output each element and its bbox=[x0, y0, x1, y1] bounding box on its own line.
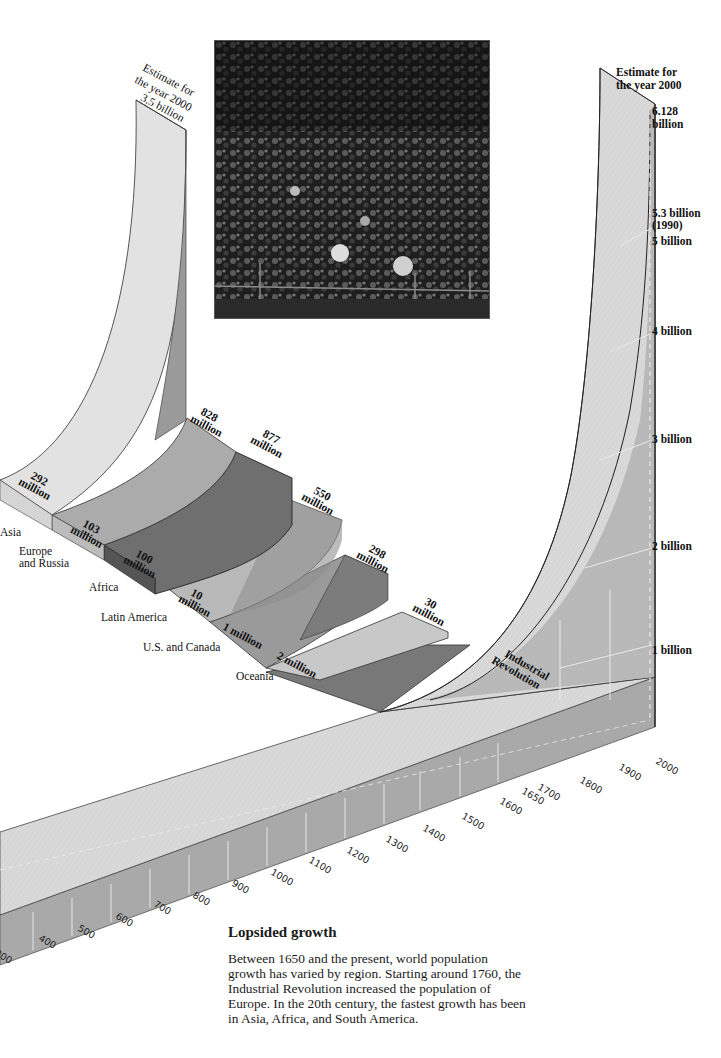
crowd-photo bbox=[214, 40, 490, 319]
world-header-2: the year 2000 bbox=[616, 79, 682, 92]
world-top-unit: billion bbox=[652, 118, 684, 130]
region-name-latin-america: Latin America bbox=[101, 611, 167, 623]
year-label: 800 bbox=[191, 889, 212, 908]
world-top-value: 6.128 bbox=[652, 105, 678, 117]
region-asia bbox=[0, 100, 186, 515]
region-name-asia: Asia bbox=[0, 526, 21, 538]
year-label: 1600 bbox=[498, 795, 524, 817]
y-label-4-billion: 4 billion bbox=[652, 325, 693, 337]
year-label: 1900 bbox=[617, 761, 643, 783]
year-label: 1800 bbox=[578, 774, 604, 796]
year-label: 1100 bbox=[307, 854, 333, 876]
year-label: 900 bbox=[230, 877, 251, 896]
caption-body: Between 1650 and the present, world popu… bbox=[228, 951, 528, 1026]
y-label-1990: (1990) bbox=[652, 219, 683, 232]
year-label: 2000 bbox=[654, 755, 680, 777]
caption: Lopsided growth Between 1650 and the pre… bbox=[228, 924, 528, 1026]
region-name-africa: Africa bbox=[89, 581, 118, 593]
year-label: 1300 bbox=[384, 833, 410, 855]
region-name-us-canada: U.S. and Canada bbox=[143, 641, 220, 653]
region-name-europe-2: and Russia bbox=[19, 557, 69, 569]
y-label-2-billion: 2 billion bbox=[652, 540, 693, 552]
world-header-1: Estimate for bbox=[616, 66, 677, 78]
y-label-1-billion: 1 billion bbox=[652, 644, 693, 656]
caption-title: Lopsided growth bbox=[228, 924, 528, 941]
year-label: 1500 bbox=[460, 810, 486, 832]
year-label: 1000 bbox=[269, 866, 295, 888]
year-label: 1400 bbox=[421, 822, 447, 844]
year-label: 1200 bbox=[345, 844, 371, 866]
y-label-5-billion: 5 billion bbox=[652, 235, 693, 247]
y-label-3-billion: 3 billion bbox=[652, 433, 693, 445]
y-label-5-3-billion: 5.3 billion bbox=[652, 207, 701, 219]
region-name-oceania: Oceania bbox=[236, 670, 274, 682]
